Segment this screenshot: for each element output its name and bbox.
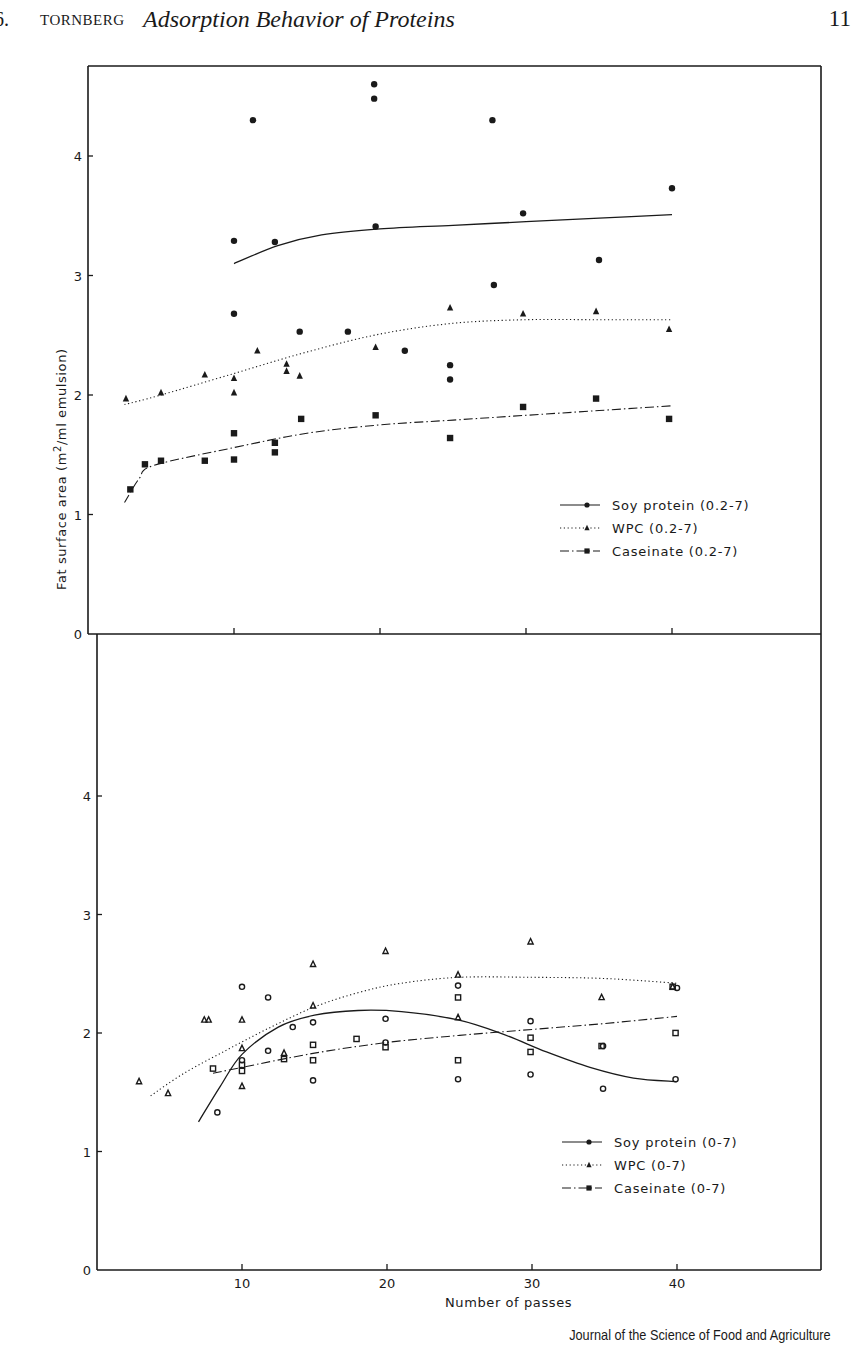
data-point: [372, 223, 378, 229]
fit-line: [199, 1010, 678, 1122]
legend-marker: [586, 1139, 591, 1144]
legend-item: Caseinate (0-7): [562, 1181, 726, 1196]
data-point: [455, 972, 460, 977]
legend-marker: [586, 1185, 591, 1190]
legend-item: Caseinate (0.2-7): [560, 544, 738, 559]
top-panel: 01234Soy protein (0.2-7)WPC (0.2-7)Casei…: [74, 66, 821, 642]
data-point: [455, 1058, 460, 1063]
y-tick-label: 2: [74, 388, 82, 403]
data-point: [489, 117, 495, 123]
data-point: [447, 376, 453, 382]
y-tick-label: 1: [83, 1145, 91, 1160]
data-point: [231, 374, 237, 381]
data-point: [455, 1014, 460, 1019]
y-tick-label: 2: [83, 1026, 91, 1041]
legend-label: Soy protein (0-7): [614, 1135, 737, 1150]
data-point: [266, 995, 271, 1000]
data-point: [520, 310, 526, 317]
data-point: [669, 185, 675, 191]
data-point: [520, 210, 526, 216]
data-point: [673, 1030, 678, 1035]
data-point: [372, 343, 378, 350]
data-point: [371, 95, 377, 101]
y-tick-label: 0: [74, 627, 82, 642]
y-axis-label: Fat surface area (m2/ml emulsion): [52, 348, 69, 590]
data-point: [491, 282, 497, 288]
data-point: [215, 1110, 220, 1115]
plot-frame: [97, 634, 821, 1270]
data-point: [272, 239, 278, 245]
data-point: [310, 1042, 315, 1047]
data-point: [158, 458, 164, 464]
data-point: [298, 416, 304, 422]
fit-line: [125, 406, 673, 503]
data-point: [528, 1035, 533, 1040]
data-point: [447, 362, 453, 368]
y-tick-label: 4: [83, 789, 91, 804]
data-point: [528, 1019, 533, 1024]
data-point: [345, 328, 351, 334]
data-point: [272, 449, 278, 455]
data-point: [297, 372, 303, 379]
figure: 01234Soy protein (0.2-7)WPC (0.2-7)Casei…: [0, 0, 853, 1355]
y-tick-label: 4: [74, 149, 82, 164]
data-point: [231, 389, 237, 396]
data-point: [666, 416, 672, 422]
data-point: [136, 1078, 141, 1083]
data-point: [254, 347, 260, 354]
legend-marker: [586, 1162, 591, 1167]
data-point: [283, 360, 289, 367]
data-point: [202, 371, 208, 378]
data-point: [202, 458, 208, 464]
series-soy: [199, 983, 680, 1122]
data-point: [127, 486, 133, 492]
data-point: [593, 308, 599, 315]
bottom-panel: 0123410203040Soy protein (0-7)WPC (0-7)C…: [83, 634, 821, 1291]
legend-label: WPC (0-7): [614, 1158, 686, 1173]
series-caseinate: [210, 984, 678, 1073]
data-point: [231, 430, 237, 436]
data-point: [281, 1050, 286, 1055]
data-point: [231, 456, 237, 462]
x-tick-label: 40: [669, 1276, 686, 1291]
data-point: [528, 1072, 533, 1077]
data-point: [383, 948, 388, 953]
data-point: [231, 238, 237, 244]
data-point: [231, 311, 237, 317]
data-point: [455, 1077, 460, 1082]
data-point: [528, 1049, 533, 1054]
x-axis-label: Number of passes: [445, 1295, 572, 1310]
series-caseinate: [125, 395, 673, 502]
data-point: [354, 1036, 359, 1041]
data-point: [158, 389, 164, 396]
data-point: [206, 1017, 211, 1022]
legend-item: WPC (0-7): [562, 1158, 686, 1173]
data-point: [239, 1017, 244, 1022]
data-point: [297, 328, 303, 334]
fit-line: [151, 977, 677, 1096]
data-point: [210, 1066, 215, 1071]
fit-line: [234, 215, 672, 264]
legend-label: Soy protein (0.2-7): [612, 498, 749, 513]
data-point: [383, 1016, 388, 1021]
data-point: [165, 1090, 170, 1095]
data-point: [239, 1068, 244, 1073]
legend-label: Caseinate (0-7): [614, 1181, 726, 1196]
data-point: [528, 939, 533, 944]
legend-item: Soy protein (0.2-7): [560, 498, 749, 513]
series-soy: [231, 81, 675, 383]
series-wpc: [123, 304, 673, 405]
data-point: [239, 1083, 244, 1088]
data-point: [593, 395, 599, 401]
data-point: [123, 395, 129, 402]
data-point: [266, 1048, 271, 1053]
y-tick-label: 0: [83, 1263, 91, 1278]
legend-label: Caseinate (0.2-7): [612, 544, 738, 559]
data-point: [239, 1045, 244, 1050]
data-point: [310, 961, 315, 966]
legend-marker: [584, 525, 589, 530]
y-tick-label: 3: [83, 908, 91, 923]
data-point: [250, 117, 256, 123]
data-point: [455, 983, 460, 988]
data-point: [310, 1003, 315, 1008]
